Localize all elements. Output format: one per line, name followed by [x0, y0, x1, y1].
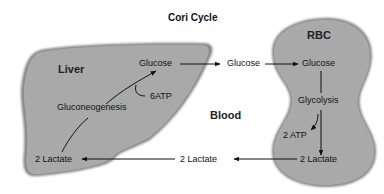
liver-glucose-node: Glucose — [139, 59, 172, 68]
rbc-2atp-node: 2 ATP — [283, 131, 307, 140]
liver-6atp-node: 6ATP — [150, 92, 172, 101]
blood-lactate-node: 2 Lactate — [180, 155, 217, 164]
liver-lactate-node: 2 Lactate — [35, 155, 72, 164]
rbc-glucose-node: Glucose — [302, 59, 335, 68]
rbc-label: RBC — [307, 30, 331, 41]
gluconeogenesis-node: Gluconeogenesis — [57, 103, 127, 112]
diagram-title: Cori Cycle — [168, 13, 217, 23]
blood-glucose-node: Glucose — [227, 59, 260, 68]
liver-label: Liver — [58, 64, 84, 75]
glycolysis-node: Glycolysis — [298, 96, 339, 105]
blood-label: Blood — [210, 110, 241, 121]
rbc-lactate-node: 2 Lactate — [300, 155, 337, 164]
